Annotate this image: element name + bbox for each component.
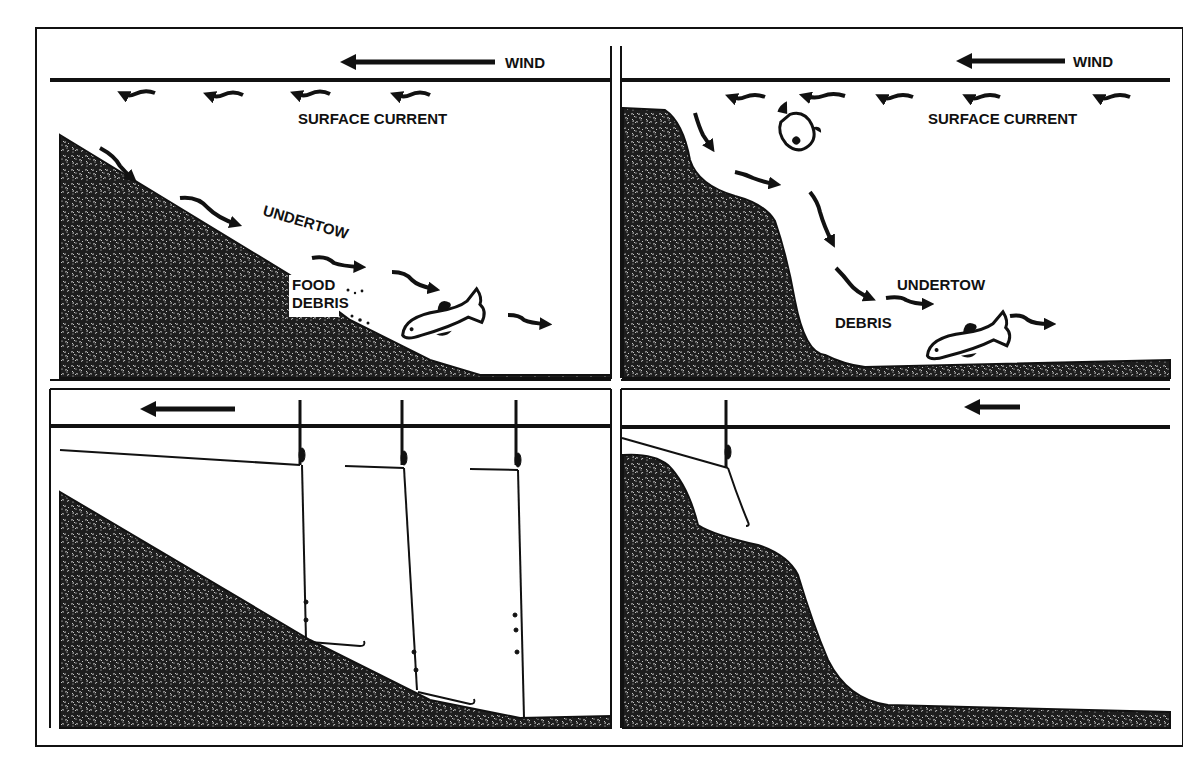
surface-current-label: SURFACE CURRENT <box>298 110 447 127</box>
ground-drop-off <box>623 108 1170 378</box>
ground-drop-off <box>623 455 1170 728</box>
float-rig-icon <box>345 400 475 704</box>
debris-label: DEBRIS <box>292 294 349 311</box>
ground-slope <box>60 492 611 728</box>
ground-slope <box>60 135 611 378</box>
panel-bottom-left <box>50 389 611 728</box>
panel-bottom-right <box>621 389 1170 728</box>
figure-canvas: WIND SURFACE CURRENT UNDERTOW FOOD DEBRI… <box>0 0 1183 780</box>
undertow-label: UNDERTOW <box>897 276 986 293</box>
panel-top-left: WIND SURFACE CURRENT UNDERTOW FOOD DEBRI… <box>50 54 611 378</box>
surface-current-arrows-icon <box>123 91 430 96</box>
surface-current-label: SURFACE CURRENT <box>928 110 1077 127</box>
wind-label: WIND <box>1073 53 1113 70</box>
surface-current-arrows-icon <box>731 94 1130 99</box>
wind-label: WIND <box>505 54 545 71</box>
panel-top-right: WIND SURFACE CURRENT UNDERTOW DEBRIS <box>621 53 1170 378</box>
fish-diving-icon <box>765 95 824 156</box>
food-label: FOOD <box>292 276 335 293</box>
fish-icon <box>396 288 487 344</box>
float-rig-icon <box>470 400 524 718</box>
fish-icon <box>922 311 1012 364</box>
undertow-label: UNDERTOW <box>261 202 351 243</box>
debris-label: DEBRIS <box>835 314 892 331</box>
